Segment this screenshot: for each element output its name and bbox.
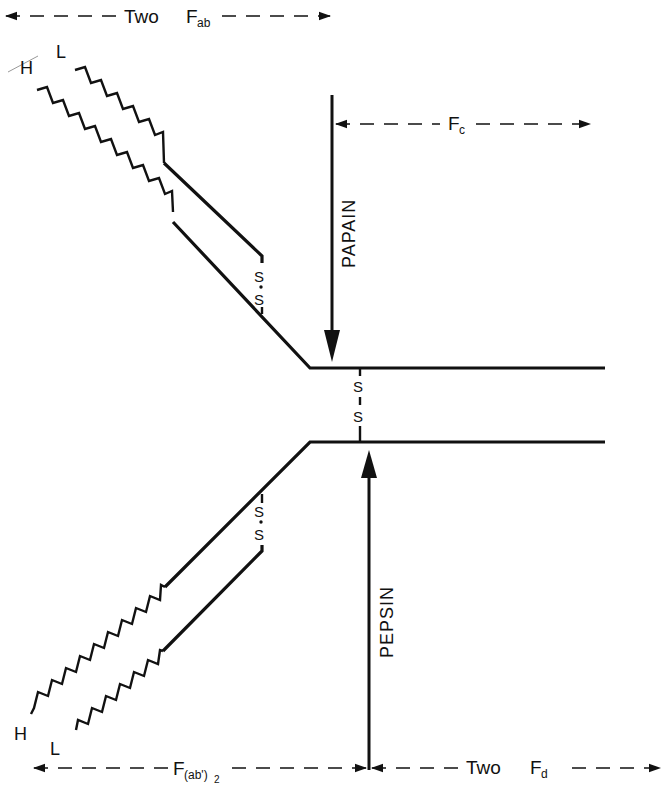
lower-ss-bottom: S bbox=[254, 526, 264, 543]
fab2-label-sub2: 2 bbox=[214, 774, 220, 785]
lower-ss-top: S bbox=[254, 503, 264, 520]
upper-light-variable-zigzag bbox=[75, 67, 164, 163]
lower-light-label: L bbox=[50, 739, 60, 759]
upper-ss-top: S bbox=[254, 268, 264, 285]
fab2-span: F (ab') 2 bbox=[34, 758, 366, 785]
lower-heavy-variable-zigzag bbox=[31, 585, 165, 714]
fd-label-sub: d bbox=[541, 767, 548, 781]
lower-light-variable-zigzag bbox=[76, 650, 163, 730]
upper-heavy-variable-zigzag bbox=[37, 87, 173, 212]
fd-label-main: F bbox=[530, 757, 542, 778]
antibody-cleavage-diagram: Two F ab F c H L S S PAPAIN bbox=[0, 0, 665, 786]
fab2-label-main: F bbox=[173, 758, 185, 779]
pepsin-arrow: PEPSIN bbox=[361, 450, 397, 770]
upper-heavy-label: H bbox=[20, 58, 33, 78]
papain-label: PAPAIN bbox=[339, 199, 359, 268]
pepsin-label: PEPSIN bbox=[377, 586, 397, 658]
lower-heavy-constant bbox=[165, 442, 605, 587]
hinge-ss-bottom: S bbox=[353, 408, 363, 425]
lower-heavy-label: H bbox=[14, 724, 27, 744]
two-fd-prefix: Two bbox=[466, 757, 501, 778]
two-fab-span: Two F ab bbox=[6, 6, 330, 30]
upper-light-constant bbox=[164, 163, 262, 263]
two-fd-span: Two F d bbox=[372, 757, 660, 781]
fab2-label-sub: (ab') bbox=[184, 768, 208, 782]
hinge-ss-top: S bbox=[353, 378, 363, 395]
fc-label-main: F bbox=[448, 113, 460, 134]
fab-label-sub: ab bbox=[197, 16, 211, 30]
upper-light-label: L bbox=[56, 42, 66, 62]
lower-fab-arm: S S H L bbox=[14, 442, 605, 759]
upper-heavy-constant bbox=[173, 222, 605, 368]
upper-ss-bond-dot bbox=[259, 285, 262, 288]
lower-light-constant bbox=[163, 545, 262, 651]
lower-ss-bond-dot bbox=[259, 520, 262, 523]
hinge-disulfide: S S bbox=[353, 368, 363, 442]
upper-fab-arm: H L S S bbox=[8, 42, 605, 368]
fc-span: F c bbox=[336, 113, 590, 137]
fc-label-sub: c bbox=[459, 123, 465, 137]
fab-label-main: F bbox=[186, 6, 198, 27]
upper-ss-bottom: S bbox=[254, 291, 264, 308]
two-fab-prefix: Two bbox=[124, 6, 159, 27]
papain-arrow: PAPAIN bbox=[324, 95, 359, 362]
